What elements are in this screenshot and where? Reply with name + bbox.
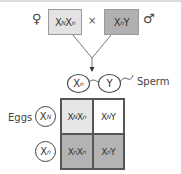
sperm-label: Sperm: [137, 76, 170, 87]
female-parent-genotype: XNXn: [48, 9, 82, 35]
allele-base: X: [40, 111, 47, 122]
egg-gamete-xn: Xn: [35, 141, 56, 162]
sperm-gamete-xn: Xn: [67, 74, 90, 93]
allele-sup: n: [83, 113, 86, 120]
punnett-cell: XnY: [93, 134, 125, 169]
allele-base: X: [73, 78, 80, 89]
allele-sup: n: [72, 19, 75, 26]
sperm-gamete-y: Y: [98, 74, 121, 93]
egg-gamete-xN: XN: [35, 106, 56, 127]
allele-sup: n: [80, 80, 84, 87]
allele-sup: n: [82, 148, 85, 155]
punnett-cell: XNY: [93, 99, 125, 134]
female-symbol-icon: ♀: [32, 11, 42, 26]
male-parent-genotype: XnY: [104, 9, 139, 35]
allele-sup: N: [47, 113, 52, 120]
allele-sup: n: [47, 148, 51, 155]
allele-base: X: [40, 146, 47, 157]
male-symbol-icon: ♂: [143, 11, 155, 26]
punnett-cell: XNXn: [61, 99, 93, 134]
punnett-square: XNXn XNY XnXn XnY: [60, 98, 125, 170]
allele-base: Y: [106, 78, 112, 89]
punnett-cell: XnXn: [61, 134, 93, 169]
allele-base: Y: [110, 147, 115, 157]
allele-base: Y: [124, 17, 130, 28]
eggs-label: Eggs: [8, 112, 32, 123]
allele-base: Y: [111, 112, 116, 122]
cross-times-symbol: ×: [88, 15, 96, 26]
